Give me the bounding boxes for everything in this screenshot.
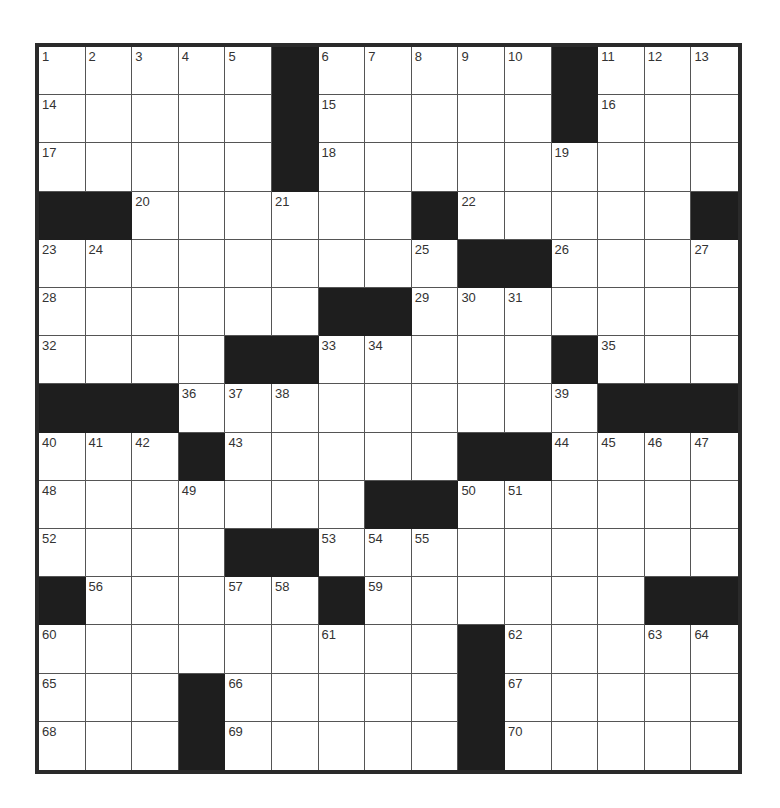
crossword-cell[interactable] (598, 625, 645, 673)
crossword-cell[interactable] (225, 240, 272, 288)
crossword-cell[interactable] (319, 674, 366, 722)
crossword-cell[interactable] (365, 625, 412, 673)
crossword-cell[interactable] (691, 481, 738, 529)
crossword-cell[interactable] (365, 143, 412, 191)
crossword-cell[interactable]: 1 (39, 47, 86, 95)
crossword-cell[interactable]: 17 (39, 143, 86, 191)
crossword-cell[interactable] (132, 529, 179, 577)
crossword-cell[interactable]: 31 (505, 288, 552, 336)
crossword-cell[interactable] (598, 288, 645, 336)
crossword-cell[interactable] (598, 577, 645, 625)
crossword-cell[interactable] (552, 529, 599, 577)
crossword-cell[interactable] (179, 95, 226, 143)
crossword-cell[interactable]: 12 (645, 47, 692, 95)
crossword-cell[interactable] (505, 336, 552, 384)
crossword-cell[interactable]: 48 (39, 481, 86, 529)
crossword-cell[interactable]: 34 (365, 336, 412, 384)
crossword-cell[interactable] (412, 336, 459, 384)
crossword-cell[interactable]: 18 (319, 143, 366, 191)
crossword-cell[interactable] (691, 674, 738, 722)
crossword-cell[interactable] (365, 192, 412, 240)
crossword-cell[interactable]: 65 (39, 674, 86, 722)
crossword-cell[interactable]: 11 (598, 47, 645, 95)
crossword-cell[interactable]: 64 (691, 625, 738, 673)
crossword-cell[interactable] (645, 481, 692, 529)
crossword-cell[interactable] (272, 722, 319, 770)
crossword-cell[interactable] (319, 481, 366, 529)
crossword-cell[interactable] (458, 384, 505, 432)
crossword-cell[interactable] (179, 625, 226, 673)
crossword-cell[interactable] (365, 722, 412, 770)
crossword-cell[interactable]: 53 (319, 529, 366, 577)
crossword-cell[interactable]: 7 (365, 47, 412, 95)
crossword-cell[interactable] (691, 529, 738, 577)
crossword-cell[interactable]: 16 (598, 95, 645, 143)
crossword-cell[interactable]: 41 (86, 433, 133, 481)
crossword-cell[interactable]: 60 (39, 625, 86, 673)
crossword-cell[interactable] (645, 722, 692, 770)
crossword-cell[interactable]: 35 (598, 336, 645, 384)
crossword-cell[interactable]: 69 (225, 722, 272, 770)
crossword-cell[interactable]: 3 (132, 47, 179, 95)
crossword-cell[interactable]: 23 (39, 240, 86, 288)
crossword-cell[interactable] (458, 143, 505, 191)
crossword-cell[interactable]: 24 (86, 240, 133, 288)
crossword-cell[interactable] (645, 529, 692, 577)
crossword-cell[interactable]: 45 (598, 433, 645, 481)
crossword-cell[interactable] (365, 95, 412, 143)
crossword-cell[interactable]: 43 (225, 433, 272, 481)
crossword-cell[interactable]: 51 (505, 481, 552, 529)
crossword-cell[interactable]: 15 (319, 95, 366, 143)
crossword-cell[interactable] (505, 529, 552, 577)
crossword-cell[interactable] (179, 240, 226, 288)
crossword-cell[interactable] (598, 674, 645, 722)
crossword-cell[interactable]: 39 (552, 384, 599, 432)
crossword-cell[interactable] (645, 143, 692, 191)
crossword-cell[interactable] (319, 192, 366, 240)
crossword-cell[interactable]: 47 (691, 433, 738, 481)
crossword-cell[interactable]: 13 (691, 47, 738, 95)
crossword-cell[interactable] (645, 95, 692, 143)
crossword-cell[interactable]: 21 (272, 192, 319, 240)
crossword-cell[interactable] (505, 577, 552, 625)
crossword-cell[interactable] (645, 240, 692, 288)
crossword-cell[interactable]: 14 (39, 95, 86, 143)
crossword-cell[interactable] (691, 722, 738, 770)
crossword-cell[interactable]: 66 (225, 674, 272, 722)
crossword-cell[interactable]: 46 (645, 433, 692, 481)
crossword-cell[interactable]: 37 (225, 384, 272, 432)
crossword-cell[interactable] (132, 95, 179, 143)
crossword-cell[interactable] (179, 192, 226, 240)
crossword-cell[interactable] (365, 433, 412, 481)
crossword-cell[interactable]: 10 (505, 47, 552, 95)
crossword-cell[interactable]: 68 (39, 722, 86, 770)
crossword-cell[interactable] (272, 433, 319, 481)
crossword-cell[interactable]: 62 (505, 625, 552, 673)
crossword-cell[interactable]: 33 (319, 336, 366, 384)
crossword-cell[interactable] (412, 384, 459, 432)
crossword-cell[interactable] (552, 577, 599, 625)
crossword-cell[interactable]: 55 (412, 529, 459, 577)
crossword-cell[interactable]: 61 (319, 625, 366, 673)
crossword-cell[interactable] (86, 625, 133, 673)
crossword-cell[interactable] (505, 192, 552, 240)
crossword-cell[interactable] (412, 674, 459, 722)
crossword-cell[interactable] (179, 577, 226, 625)
crossword-cell[interactable] (86, 95, 133, 143)
crossword-cell[interactable] (505, 143, 552, 191)
crossword-cell[interactable] (225, 192, 272, 240)
crossword-cell[interactable] (179, 143, 226, 191)
crossword-cell[interactable] (179, 529, 226, 577)
crossword-cell[interactable] (552, 625, 599, 673)
crossword-cell[interactable] (552, 288, 599, 336)
crossword-cell[interactable] (691, 95, 738, 143)
crossword-cell[interactable] (132, 336, 179, 384)
crossword-cell[interactable] (132, 240, 179, 288)
crossword-cell[interactable] (225, 95, 272, 143)
crossword-cell[interactable] (645, 336, 692, 384)
crossword-cell[interactable] (645, 674, 692, 722)
crossword-cell[interactable] (412, 433, 459, 481)
crossword-cell[interactable] (458, 577, 505, 625)
crossword-cell[interactable] (412, 577, 459, 625)
crossword-cell[interactable]: 30 (458, 288, 505, 336)
